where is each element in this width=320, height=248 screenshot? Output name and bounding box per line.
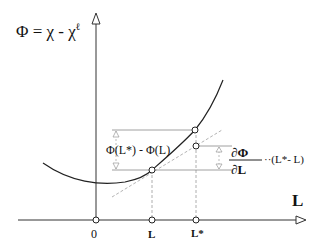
x-axis-label: L <box>292 192 303 209</box>
derivative-denominator: ∂L <box>231 163 246 176</box>
difference-label: Φ(L*) - Φ(L) <box>106 144 170 156</box>
point-Lstar-curve <box>192 127 198 133</box>
origin-label: 0 <box>91 228 97 240</box>
tick-Lstar: L* <box>191 228 204 239</box>
point-L-curve <box>149 167 155 173</box>
arrow-up-icon <box>113 131 119 137</box>
tangent-line <box>112 130 222 197</box>
formula-chi-l: χ <box>68 22 76 41</box>
point-Lstar-axis <box>193 217 199 223</box>
x-axis-arrow <box>296 216 306 224</box>
arrow-down-icon <box>216 164 222 169</box>
tick-L: L <box>148 229 155 240</box>
formula-lhs: Φ = <box>16 22 42 41</box>
derivative-numerator: ∂Φ <box>231 146 248 159</box>
y-axis-arrow <box>92 13 100 24</box>
point-L-axis <box>149 217 155 223</box>
derivative-tail: ··(L*- L) <box>264 154 304 165</box>
formula-sup: ℓ <box>76 21 81 32</box>
formula-minus: - <box>58 22 64 41</box>
point-tangent <box>193 143 199 149</box>
formula: Φ = χ - χℓ <box>16 22 81 40</box>
arrow-down-icon <box>113 163 119 169</box>
arrow-up-icon <box>216 147 222 152</box>
formula-chi: χ <box>47 22 55 41</box>
point-origin <box>93 217 99 223</box>
